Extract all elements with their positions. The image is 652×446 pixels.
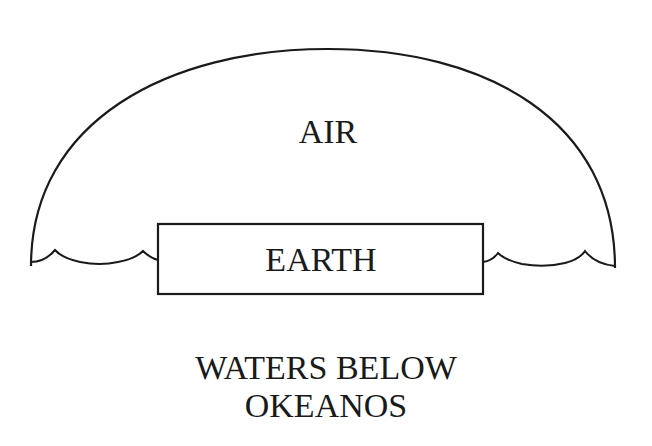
waves-right <box>483 251 615 266</box>
earth-label: EARTH <box>158 240 484 280</box>
air-label: AIR <box>228 112 428 152</box>
waves-left <box>31 250 158 264</box>
waters-below-label: WATERS BELOW OKEANOS <box>120 349 532 425</box>
waters-label-line2: OKEANOS <box>120 387 532 425</box>
waters-label-line1: WATERS BELOW <box>120 349 532 387</box>
